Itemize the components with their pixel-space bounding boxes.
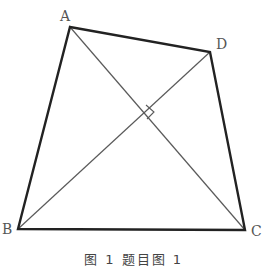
vertex-label-b: B [2,222,12,236]
vertex-label-c: C [251,224,262,238]
vertex-label-a: A [60,9,70,23]
vertex-label-d: D [216,37,227,51]
figure-caption: 图 1 题目图 1 [0,249,267,268]
quadrilateral-abcd [18,27,245,230]
diagonal-ac [70,27,245,230]
